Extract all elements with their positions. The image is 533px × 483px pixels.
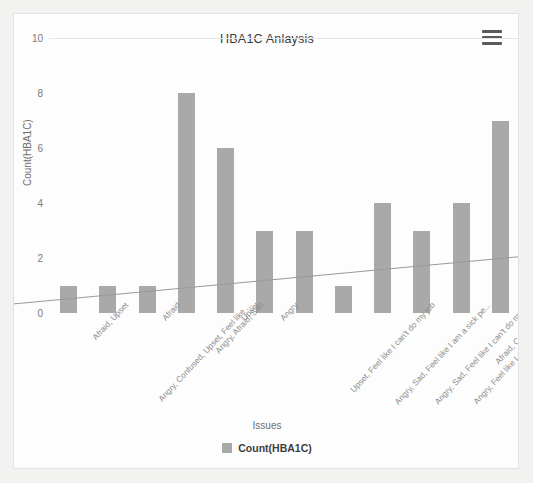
trend-line <box>49 38 519 313</box>
y-axis-tick-label: 10 <box>32 33 43 44</box>
bar[interactable] <box>453 203 470 313</box>
bar[interactable] <box>492 121 509 314</box>
legend-swatch <box>222 443 232 453</box>
x-axis-tick-labels: Afraid, UpsetAngry, Confused, Upset, Fee… <box>49 300 519 420</box>
x-axis-tick-label: Afraid, Upset <box>90 300 130 342</box>
y-axis-tick-label: 0 <box>37 308 43 319</box>
bar[interactable] <box>374 203 391 313</box>
chart-legend: Count(HBA1C) <box>14 442 519 454</box>
y-axis-tick-label: 4 <box>37 198 43 209</box>
y-axis-tick-label: 6 <box>37 143 43 154</box>
x-axis-line <box>49 38 519 39</box>
bar[interactable] <box>178 93 195 313</box>
plot-area: 0246810 <box>49 38 519 313</box>
x-axis-title: Issues <box>14 420 519 431</box>
bar[interactable] <box>217 148 234 313</box>
hamburger-bar-1 <box>482 30 502 33</box>
x-axis-tick-label: Angry <box>278 300 300 323</box>
legend-label: Count(HBA1C) <box>238 442 312 454</box>
x-axis-tick-label: Afraid <box>160 300 182 323</box>
y-axis-title: Count(HBA1C) <box>22 119 33 186</box>
y-axis-tick-label: 2 <box>37 253 43 264</box>
chart-card: HBA1C Anlaysis Count(HBA1C) 0246810 Afra… <box>13 13 519 469</box>
y-axis-tick-label: 8 <box>37 88 43 99</box>
